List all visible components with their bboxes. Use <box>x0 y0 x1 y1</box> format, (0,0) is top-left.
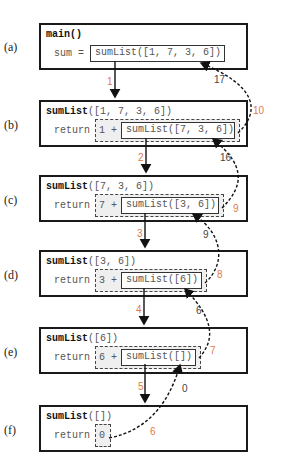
return-value-17: 17 <box>214 74 225 85</box>
return-arrows <box>109 63 251 438</box>
return-value-0: 0 <box>182 383 188 394</box>
return-step-7: 7 <box>210 345 216 356</box>
return-step-9: 9 <box>233 203 239 214</box>
call-step-3: 3 <box>137 228 143 239</box>
return-value-6: 6 <box>196 305 202 316</box>
return-value-16: 16 <box>220 152 231 163</box>
call-step-4: 4 <box>136 304 142 315</box>
return-step-10: 10 <box>253 105 264 116</box>
return-value-9: 9 <box>203 229 209 240</box>
call-step-1: 1 <box>107 76 113 87</box>
call-step-2: 2 <box>138 152 144 163</box>
return-step-6: 6 <box>150 426 156 437</box>
call-step-5: 5 <box>138 381 144 392</box>
return-step-8: 8 <box>217 269 223 280</box>
